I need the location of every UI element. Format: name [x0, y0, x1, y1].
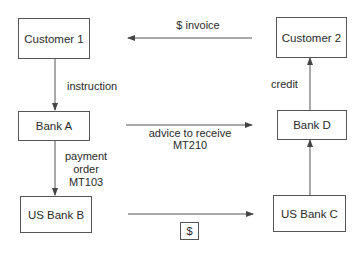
node-bank-d: Bank D [277, 110, 347, 140]
payment-label-line2: order [62, 163, 110, 175]
node-us-bank-c-label: US Bank C [281, 208, 338, 220]
instruction-label: instruction [67, 80, 117, 92]
node-customer-2-label: Customer 2 [282, 32, 341, 44]
invoice-label: $ invoice [158, 19, 238, 31]
node-us-bank-b: US Bank B [20, 196, 92, 233]
node-customer-2: Customer 2 [276, 17, 347, 58]
node-customer-1: Customer 1 [18, 18, 90, 59]
payment-label-line3: MT103 [62, 176, 110, 188]
dollar-label: $ [186, 225, 192, 237]
node-bank-d-label: Bank D [293, 119, 331, 131]
advice-label-line1: advice to receive [140, 127, 240, 139]
node-us-bank-c: US Bank C [273, 195, 346, 232]
node-customer-1-label: Customer 1 [24, 33, 83, 45]
advice-label-line2: MT210 [140, 139, 240, 151]
node-bank-a: Bank A [18, 111, 90, 141]
node-us-bank-b-label: US Bank B [28, 209, 84, 221]
dollar-box: $ [180, 222, 199, 240]
credit-label: credit [271, 78, 298, 90]
payment-label-line1: payment [62, 150, 110, 162]
node-bank-a-label: Bank A [36, 120, 72, 132]
